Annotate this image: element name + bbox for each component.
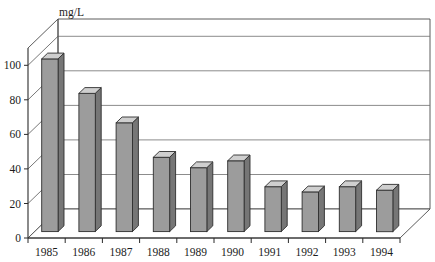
x-tick-label: 1989 bbox=[184, 246, 207, 258]
bar-column bbox=[191, 162, 213, 232]
bar-side-face bbox=[58, 53, 64, 232]
bar-column bbox=[42, 53, 64, 232]
bar-column bbox=[302, 186, 324, 232]
y-tick-label: 80 bbox=[10, 94, 22, 106]
x-tick-label: 1994 bbox=[370, 246, 393, 258]
chart-canvas: 020406080100 198519861987198819891990199… bbox=[0, 0, 435, 262]
bar-front-face bbox=[191, 168, 207, 232]
bar-column bbox=[79, 88, 101, 232]
x-tick-label: 1993 bbox=[333, 246, 356, 258]
bar-front-face bbox=[302, 192, 318, 232]
y-tick-label-group: 020406080100 bbox=[4, 59, 22, 244]
gridline-group bbox=[58, 36, 430, 174]
bar-chart-figure: 020406080100 198519861987198819891990199… bbox=[0, 0, 435, 262]
bar-front-face bbox=[116, 123, 132, 232]
bar-side-face bbox=[318, 186, 324, 232]
bar-column bbox=[228, 155, 250, 232]
bar-side-face bbox=[132, 117, 138, 232]
bar-group bbox=[42, 53, 399, 232]
x-tick-label-group: 1985198619871988198919901991199219931994 bbox=[35, 246, 393, 258]
y-axis-unit-label: mg/L bbox=[59, 6, 84, 19]
bar-column bbox=[153, 152, 175, 232]
y-tick-label: 0 bbox=[15, 232, 21, 244]
x-tick-label: 1986 bbox=[72, 246, 95, 258]
x-tick-label: 1985 bbox=[35, 246, 58, 258]
bar-column bbox=[116, 117, 138, 232]
x-tick-label: 1987 bbox=[110, 246, 133, 258]
bar-front-face bbox=[79, 93, 95, 231]
x-tick-label: 1990 bbox=[221, 246, 244, 258]
y-axis bbox=[24, 48, 28, 238]
bar-side-face bbox=[356, 181, 362, 232]
wall-top-connector bbox=[28, 19, 58, 48]
bar-column bbox=[377, 184, 399, 231]
bar-side-face bbox=[244, 155, 250, 232]
y-tick-label: 40 bbox=[10, 163, 22, 175]
bar-front-face bbox=[339, 187, 355, 232]
y-tick-label: 100 bbox=[4, 59, 22, 71]
bar-front-face bbox=[153, 157, 169, 231]
x-tick-label: 1991 bbox=[258, 246, 281, 258]
x-tick-label: 1988 bbox=[147, 246, 170, 258]
bar-side-face bbox=[281, 181, 287, 232]
y-tick-label: 60 bbox=[10, 128, 22, 140]
bar-front-face bbox=[377, 190, 393, 232]
bar-front-face bbox=[228, 161, 244, 232]
bar-side-face bbox=[207, 162, 213, 232]
bar-front-face bbox=[265, 187, 281, 232]
y-tick-label: 20 bbox=[10, 198, 22, 210]
x-tick-label: 1992 bbox=[296, 246, 319, 258]
bar-front-face bbox=[42, 59, 58, 232]
bar-side-face bbox=[393, 184, 399, 231]
bar-column bbox=[265, 181, 287, 232]
bar-side-face bbox=[95, 88, 101, 232]
bar-side-face bbox=[170, 152, 176, 232]
bar-column bbox=[339, 181, 361, 232]
x-axis bbox=[28, 238, 400, 243]
